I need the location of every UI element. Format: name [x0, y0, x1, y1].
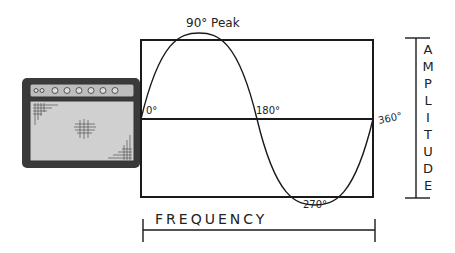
- peak-label: 90° Peak: [186, 16, 240, 30]
- guitar-amplifier-icon: [22, 78, 140, 168]
- end-label: 360°: [377, 110, 403, 126]
- svg-text:L: L: [424, 93, 432, 108]
- mid-label: 180°: [256, 105, 280, 116]
- amplitude-label: A M P L I T U D E: [422, 42, 433, 193]
- trough-label: 270°: [303, 199, 327, 210]
- amplitude-axis: A M P L I T U D E: [405, 38, 434, 198]
- svg-text:E: E: [424, 178, 432, 193]
- svg-text:U: U: [423, 144, 433, 159]
- frequency-label: FREQUENCY: [155, 211, 267, 227]
- sine-wave-diagram: 90° Peak 0° 180° 360° 270° FREQUENCY A M…: [0, 0, 455, 253]
- svg-text:D: D: [423, 161, 433, 176]
- svg-text:I: I: [426, 110, 430, 125]
- svg-text:P: P: [424, 76, 432, 91]
- svg-text:A: A: [424, 42, 433, 57]
- frequency-axis: FREQUENCY: [143, 211, 375, 242]
- svg-text:T: T: [423, 127, 432, 142]
- start-label: 0°: [146, 105, 157, 116]
- svg-text:M: M: [422, 59, 433, 74]
